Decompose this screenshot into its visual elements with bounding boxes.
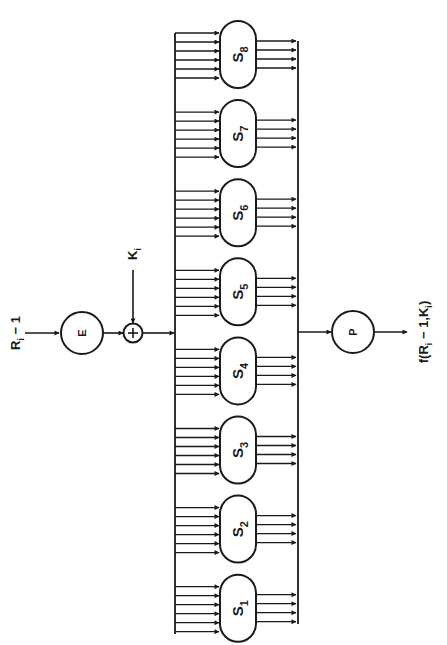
svg-text:Ri − 1: Ri − 1 (8, 316, 26, 350)
sbox-8: S8 (175, 21, 296, 88)
sbox-3: S3 (175, 417, 296, 484)
output-label: f(Ri − 1,Ki) (416, 301, 434, 363)
xor-node (124, 324, 143, 343)
sbox-7: S7 (175, 100, 296, 167)
svg-text:P: P (347, 328, 359, 335)
sbox-4: S4 (175, 337, 296, 404)
svg-text:f(Ri − 1,Ki): f(Ri − 1,Ki) (416, 301, 434, 363)
des-f-function-diagram: Ri − 1 E Ki S1S2S3S4S5S6S7S8 P (0, 0, 447, 645)
sbox-2: S2 (175, 496, 296, 563)
sbox-group: S1S2S3S4S5S6S7S8 (175, 21, 296, 642)
sbox-5: S5 (175, 258, 296, 325)
input-label: Ri − 1 (8, 316, 26, 350)
sbox-6: S6 (175, 179, 296, 246)
svg-text:Ki: Ki (125, 248, 143, 260)
permutation-node: P (332, 311, 374, 353)
expansion-node: E (61, 312, 103, 354)
sbox-1: S1 (175, 575, 296, 642)
svg-text:E: E (76, 329, 88, 336)
key-label: Ki (125, 248, 143, 260)
